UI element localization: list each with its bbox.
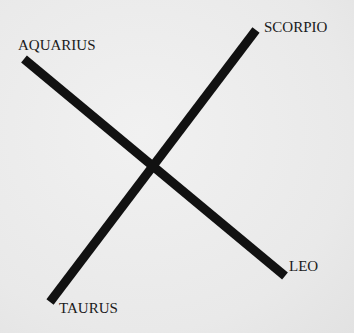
label-taurus: TAURUS <box>59 301 118 316</box>
label-aquarius: AQUARIUS <box>18 38 96 53</box>
label-leo: LEO <box>289 259 318 274</box>
diagram-canvas: AQUARIUS SCORPIO LEO TAURUS <box>0 0 354 333</box>
label-scorpio: SCORPIO <box>264 20 327 35</box>
line-scorpio-taurus <box>50 30 256 302</box>
